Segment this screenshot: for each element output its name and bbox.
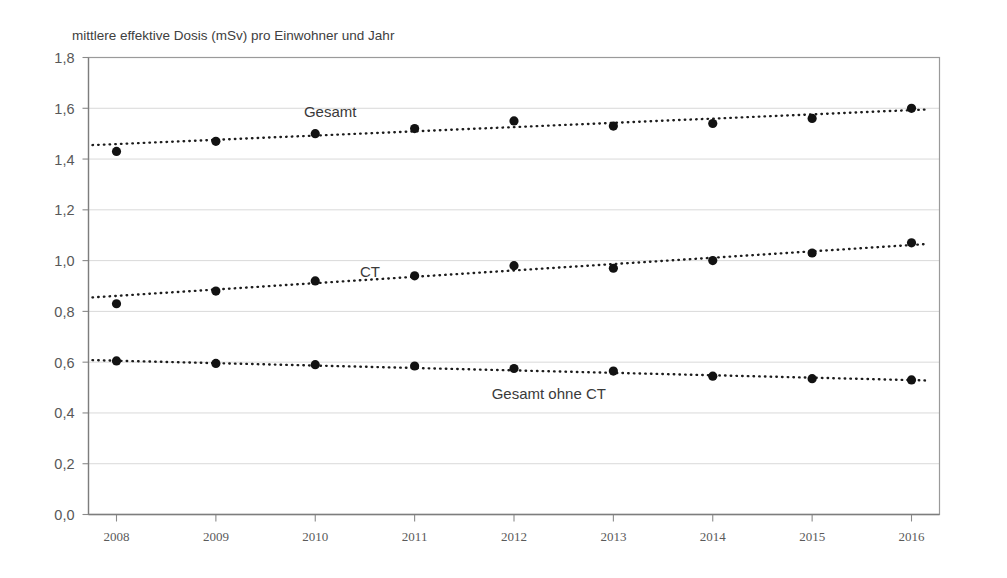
data-point [907,238,916,247]
data-point [311,360,320,369]
y-tick-label: 0,6 [54,355,74,371]
x-tick-label: 2016 [899,529,926,544]
y-tick-label: 1,4 [54,152,74,168]
y-tick-label: 0,4 [54,405,74,421]
data-point [907,104,916,113]
x-axis-tick-labels: 200820092010201120122013201420152016 [104,529,926,544]
data-point [509,116,518,125]
y-tick-label: 1,2 [54,202,74,218]
data-point [211,359,220,368]
data-point [112,147,121,156]
data-point [808,374,817,383]
data-point [112,299,121,308]
x-tick-label: 2012 [501,529,527,544]
y-tick-label: 1,6 [54,101,74,117]
x-tick-label: 2013 [600,529,626,544]
y-tick-label: 0,0 [54,507,74,523]
data-point [112,356,121,365]
y-tick-label: 0,8 [54,304,74,320]
data-point [509,261,518,270]
data-point [509,364,518,373]
data-point [708,372,717,381]
y-tick-label: 0,2 [54,456,74,472]
x-tick-label: 2015 [799,529,825,544]
chart-container: mittlere effektive Dosis (mSv) pro Einwo… [0,0,1007,578]
data-point [609,366,618,375]
x-tick-label: 2008 [104,529,130,544]
series-label: Gesamt [304,103,357,120]
series-label: Gesamt ohne CT [492,385,606,402]
data-point [211,137,220,146]
data-point [410,124,419,133]
data-point [808,114,817,123]
y-tick-label: 1,0 [54,253,74,269]
data-point [609,264,618,273]
chart-title: mittlere effektive Dosis (mSv) pro Einwo… [72,28,395,43]
x-tick-label: 2010 [302,529,328,544]
dose-trend-chart: mittlere effektive Dosis (mSv) pro Einwo… [0,0,1007,578]
data-point [410,361,419,370]
data-point [808,248,817,257]
x-tick-label: 2011 [402,529,428,544]
data-point [311,129,320,138]
series-label: CT [360,263,380,280]
data-point [708,256,717,265]
data-point [311,276,320,285]
data-point [609,121,618,130]
data-point [211,286,220,295]
data-point [410,271,419,280]
data-point [907,375,916,384]
x-tick-label: 2009 [203,529,229,544]
data-point [708,119,717,128]
x-tick-label: 2014 [700,529,727,544]
y-tick-label: 1,8 [54,50,74,66]
chart-background [0,0,1007,578]
